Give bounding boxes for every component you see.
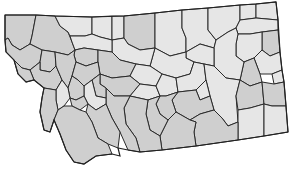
montana-county-map bbox=[0, 0, 289, 171]
county-carter bbox=[264, 104, 288, 136]
county-liberty bbox=[112, 16, 124, 40]
county-fallon bbox=[262, 82, 286, 106]
county-sheridan bbox=[256, 2, 278, 20]
county-daniels bbox=[240, 4, 256, 20]
county-blaine bbox=[155, 10, 186, 56]
county-powder-river bbox=[238, 104, 264, 140]
counties-group bbox=[5, 2, 288, 164]
